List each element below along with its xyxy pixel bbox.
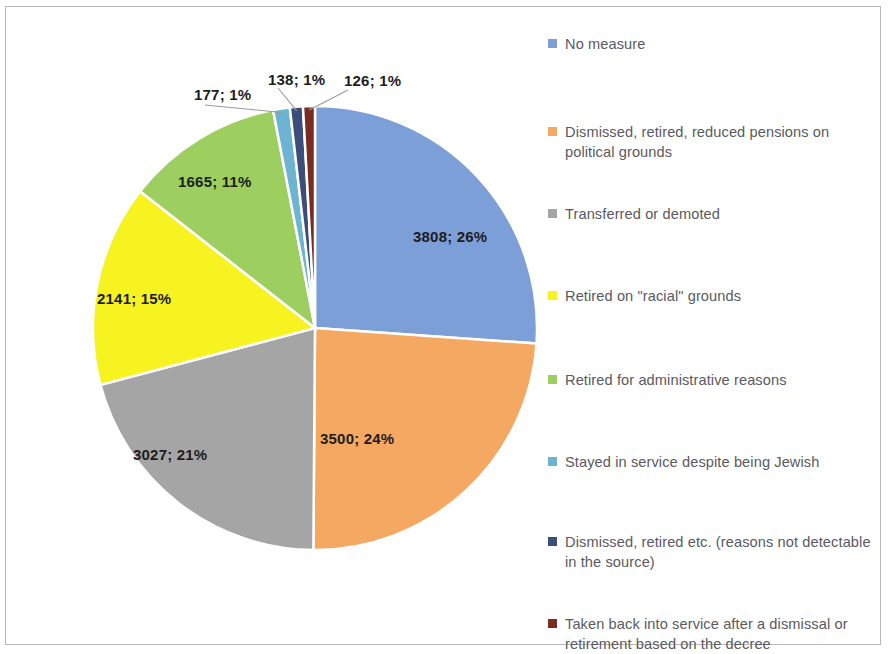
legend: No measureDismissed, retired, reduced pe… bbox=[548, 14, 878, 640]
pie-svg bbox=[60, 60, 540, 600]
pie-data-label: 138; 1% bbox=[268, 71, 325, 88]
legend-item-label: Dismissed, retired, reduced pensions on … bbox=[565, 122, 873, 162]
legend-swatch-icon bbox=[548, 291, 557, 300]
legend-item-label: Taken back into service after a dismissa… bbox=[565, 614, 873, 654]
legend-item[interactable]: No measure bbox=[548, 34, 873, 54]
legend-item[interactable]: Retired on "racial" grounds bbox=[548, 286, 873, 306]
legend-item-label: Transferred or demoted bbox=[565, 204, 720, 224]
legend-swatch-icon bbox=[548, 537, 557, 546]
legend-swatch-icon bbox=[548, 457, 557, 466]
legend-swatch-icon bbox=[548, 619, 557, 628]
legend-item-label: Retired for administrative reasons bbox=[565, 370, 787, 390]
pie-slice[interactable] bbox=[315, 106, 537, 344]
pie-data-label: 3500; 24% bbox=[320, 430, 394, 447]
pie-chart: 3808; 26%3500; 24%3027; 21%2141; 15%1665… bbox=[0, 0, 892, 654]
legend-item[interactable]: Dismissed, retired, reduced pensions on … bbox=[548, 122, 873, 162]
legend-item[interactable]: Transferred or demoted bbox=[548, 204, 873, 224]
pie-data-label: 177; 1% bbox=[194, 86, 251, 103]
pie-slice-group bbox=[93, 106, 537, 550]
chart-page: 3808; 26%3500; 24%3027; 21%2141; 15%1665… bbox=[0, 0, 892, 654]
pie-data-label: 2141; 15% bbox=[97, 290, 171, 307]
legend-item[interactable]: Retired for administrative reasons bbox=[548, 370, 873, 390]
legend-swatch-icon bbox=[548, 209, 557, 218]
leader-line bbox=[205, 105, 282, 113]
legend-swatch-icon bbox=[548, 39, 557, 48]
legend-item-label: Retired on "racial" grounds bbox=[565, 286, 741, 306]
legend-item-label: No measure bbox=[565, 34, 646, 54]
legend-item[interactable]: Stayed in service despite being Jewish bbox=[548, 452, 873, 472]
legend-item-label: Stayed in service despite being Jewish bbox=[565, 452, 819, 472]
pie-data-label: 3027; 21% bbox=[133, 446, 207, 463]
pie-data-label: 3808; 26% bbox=[413, 228, 487, 245]
legend-swatch-icon bbox=[548, 127, 557, 136]
legend-item[interactable]: Dismissed, retired etc. (reasons not det… bbox=[548, 532, 873, 572]
pie-data-label: 126; 1% bbox=[344, 72, 401, 89]
pie-data-label: 1665; 11% bbox=[178, 173, 252, 190]
legend-item-label: Dismissed, retired etc. (reasons not det… bbox=[565, 532, 873, 572]
legend-item[interactable]: Taken back into service after a dismissa… bbox=[548, 614, 873, 654]
legend-swatch-icon bbox=[548, 375, 557, 384]
